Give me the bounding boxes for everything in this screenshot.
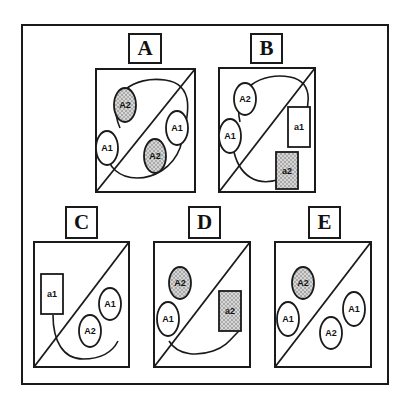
ellipse-node-a2: A2	[79, 315, 101, 347]
node-label: a1	[47, 289, 57, 299]
panel-a: A2A1A1A2	[95, 68, 196, 193]
figure-stage: A A2A1A1A2 B A2A1a1a2 C a1A1A2 D A2A1a2 …	[0, 0, 406, 404]
panel-drawing: A2A1a2	[153, 241, 251, 368]
node-label: A2	[325, 328, 337, 338]
rect-node-a1: a1	[288, 107, 310, 147]
node-label: A1	[348, 304, 360, 314]
node-label: A1	[171, 123, 183, 133]
node-label: A2	[84, 326, 96, 336]
ellipse-node-a2: A2	[292, 267, 314, 299]
node-label: A1	[104, 299, 116, 309]
panel-label-c: C	[65, 206, 98, 239]
ellipse-node-a1: A1	[166, 111, 188, 145]
panel-c: a1A1A2	[33, 241, 130, 368]
node-label: a2	[225, 306, 235, 316]
node-label: A1	[101, 143, 113, 153]
panel-label-e: E	[308, 206, 341, 239]
panel-d: A2A1a2	[153, 241, 251, 368]
ellipse-node-a2: A2	[144, 139, 166, 173]
ellipse-node-a1: A1	[343, 292, 365, 326]
node-label: a1	[294, 122, 304, 132]
node-label: A2	[149, 151, 161, 161]
panel-label-d: D	[188, 206, 221, 239]
ellipse-node-a1: A1	[157, 302, 179, 336]
rect-node-a1: a1	[41, 274, 63, 314]
panel-e: A2A1A1A2	[274, 241, 372, 368]
node-label: A1	[162, 314, 174, 324]
panel-label-a: A	[128, 33, 162, 64]
panel-drawing: a1A1A2	[33, 241, 130, 368]
ellipse-node-a2: A2	[169, 267, 191, 299]
ellipse-node-a1: A1	[277, 302, 299, 336]
node-label: A1	[282, 314, 294, 324]
node-label: A2	[297, 278, 309, 288]
ellipse-node-a2: A2	[320, 317, 342, 349]
ellipse-node-a2: A2	[114, 88, 136, 122]
ellipse-node-a1: A1	[96, 131, 118, 165]
node-label: A2	[119, 100, 131, 110]
node-label: A1	[224, 131, 236, 141]
panel-label-b: B	[250, 33, 283, 64]
panel-b: A2A1a1a2	[218, 67, 316, 193]
panel-drawing: A2A1A1A2	[95, 68, 196, 193]
rect-node-a2: a2	[219, 291, 241, 331]
rect-node-a2: a2	[276, 152, 298, 189]
panel-drawing: A2A1A1A2	[274, 241, 372, 368]
panel-drawing: A2A1a1a2	[218, 67, 316, 193]
ellipse-node-a1: A1	[219, 119, 241, 153]
ellipse-node-a2: A2	[234, 83, 256, 115]
ellipse-node-a1: A1	[99, 288, 121, 320]
node-label: A2	[174, 278, 186, 288]
node-label: A2	[239, 94, 251, 104]
node-label: a2	[282, 166, 292, 176]
